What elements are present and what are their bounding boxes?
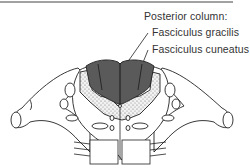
fasciculus-cuneatus-label: Fasciculus cuneatus bbox=[152, 43, 249, 55]
posterior-column-title: Posterior column: bbox=[144, 10, 227, 22]
fasciculus-gracilis-label: Fasciculus gracilis bbox=[152, 26, 239, 38]
spinal-cord-diagram: Posterior column: Fasciculus gracilis Fa… bbox=[0, 0, 250, 168]
cord-body bbox=[60, 60, 180, 160]
